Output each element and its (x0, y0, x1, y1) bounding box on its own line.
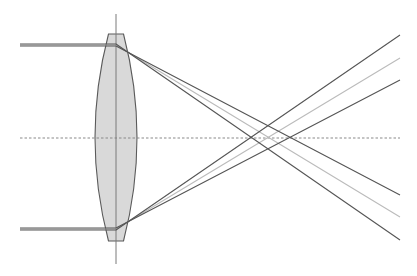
ray-bottom-mid (20, 58, 400, 229)
ray-top-outer (20, 44, 400, 240)
diagram-canvas (0, 0, 417, 276)
lens-ray-diagram (0, 0, 417, 276)
ray-top-mid (20, 45, 400, 217)
